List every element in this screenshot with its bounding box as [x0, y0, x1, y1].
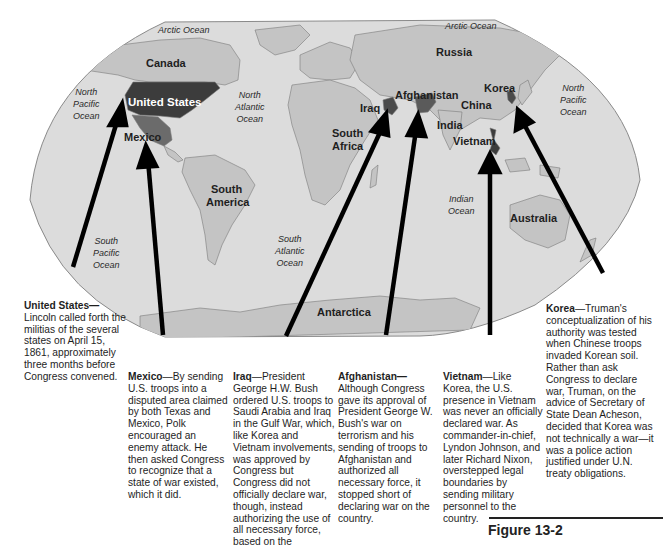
- caption-title: Mexico: [128, 371, 163, 382]
- caption-korea: Korea—Truman's conceptualization of his …: [546, 303, 654, 480]
- ocean-label-south-pacific: South Pacific Ocean: [93, 235, 120, 271]
- country-label-russia: Russia: [436, 47, 472, 58]
- country-label-united-states: United States: [128, 97, 202, 108]
- country-label-china: China: [461, 100, 492, 111]
- ocean-label-north-pacific-right: North Pacific Ocean: [560, 82, 587, 118]
- caption-title: Afghanistan—: [338, 371, 407, 382]
- country-label-south-america-2: America: [206, 197, 249, 208]
- caption-body: —By sending U.S. troops into a disputed …: [128, 371, 228, 500]
- caption-afghanistan: Afghanistan— Although Congress gave its …: [338, 371, 438, 524]
- ocean-label-arctic-right: Arctic Ocean: [445, 20, 497, 32]
- caption-body: —Truman's conceptualization of his autho…: [546, 303, 654, 479]
- country-label-korea: Korea: [484, 83, 515, 94]
- caption-title: Iraq: [233, 371, 252, 382]
- country-label-south-africa-2: Africa: [332, 141, 363, 152]
- country-label-vietnam: Vietnam: [453, 136, 496, 147]
- caption-title: Vietnam: [443, 371, 482, 382]
- caption-body: Although Congress gave its approval of P…: [338, 383, 433, 524]
- caption-body: Lincoln called forth the militias of the…: [24, 312, 126, 382]
- country-label-australia: Australia: [510, 213, 557, 224]
- ocean-label-arctic-left: Arctic Ocean: [158, 24, 210, 36]
- country-label-antarctica: Antarctica: [317, 307, 371, 318]
- caption-mexico: Mexico—By sending U.S. troops into a dis…: [128, 371, 228, 501]
- country-label-iraq: Iraq: [360, 103, 380, 114]
- ocean-label-north-atlantic: North Atlantic Ocean: [235, 89, 265, 125]
- caption-iraq: Iraq—President George H.W. Bush ordered …: [233, 371, 337, 548]
- figure-rule: [489, 517, 663, 519]
- country-label-afghanistan: Afghanistan: [395, 90, 459, 101]
- figure-label: Figure 13-2: [488, 522, 563, 538]
- ocean-label-south-atlantic: South Atlantic Ocean: [275, 233, 305, 269]
- country-label-mexico: Mexico: [124, 132, 161, 143]
- caption-body: —President George H.W. Bush ordered U.S.…: [233, 371, 335, 547]
- caption-title: United States—: [24, 300, 99, 311]
- caption-title: Korea: [546, 303, 575, 314]
- caption-body: —Like Korea, the U.S. presence in Vietna…: [443, 371, 542, 524]
- caption-united-states: United States— Lincoln called forth the …: [24, 300, 132, 383]
- caption-vietnam: Vietnam—Like Korea, the U.S. presence in…: [443, 371, 543, 524]
- ocean-label-north-pacific-left: North Pacific Ocean: [73, 86, 100, 122]
- ocean-label-indian: Indian Ocean: [448, 193, 475, 217]
- country-label-canada: Canada: [146, 58, 186, 69]
- country-label-india: India: [437, 120, 463, 131]
- country-label-south-america-1: South: [211, 184, 242, 195]
- country-label-south-africa-1: South: [332, 128, 363, 139]
